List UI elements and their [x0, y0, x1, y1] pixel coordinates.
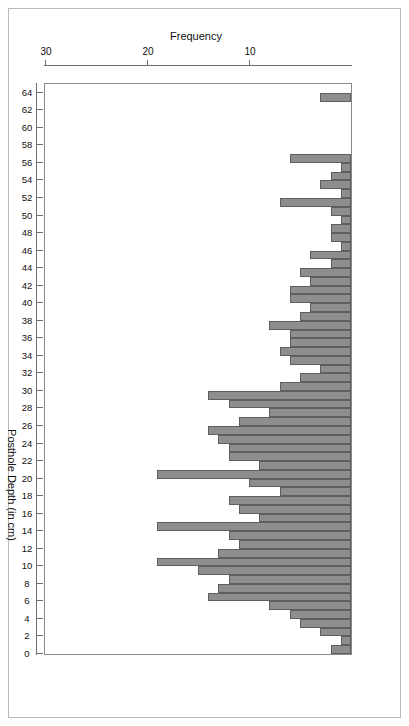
- depth-tick: [37, 215, 43, 216]
- frequency-tick-label: 20: [133, 46, 163, 58]
- depth-tick: [37, 109, 43, 110]
- depth-tick-label: 0: [19, 649, 35, 659]
- depth-tick: [37, 355, 43, 356]
- depth-tick-label: 10: [19, 561, 35, 571]
- histogram-bar: [300, 373, 351, 382]
- depth-tick-label: 30: [19, 386, 35, 396]
- frequency-axis-title: Frequency: [131, 30, 261, 42]
- frequency-tick: [147, 60, 148, 66]
- histogram-bar: [229, 444, 351, 453]
- histogram-bar: [341, 189, 351, 198]
- depth-tick: [37, 390, 43, 391]
- histogram-bar: [310, 277, 351, 286]
- histogram-bar: [269, 321, 351, 330]
- histogram-bar: [300, 312, 351, 321]
- depth-tick: [37, 285, 43, 286]
- histogram-bar: [229, 496, 351, 505]
- histogram-chart: 302010 Frequency 02468101214161820222426…: [8, 8, 401, 718]
- histogram-bar: [269, 601, 351, 610]
- histogram-bar: [331, 233, 351, 242]
- depth-tick-label: 48: [19, 228, 35, 238]
- histogram-bar: [157, 558, 351, 567]
- depth-tick-label: 62: [19, 105, 35, 115]
- depth-tick-label: 46: [19, 246, 35, 256]
- histogram-bar: [310, 251, 351, 260]
- depth-axis-title-wrapper: Posthole Depth (in cm): [6, 420, 22, 550]
- histogram-bar: [269, 408, 351, 417]
- histogram-bar: [239, 417, 351, 426]
- depth-axis-line: [36, 83, 37, 655]
- histogram-bar: [229, 452, 351, 461]
- histogram-bar: [208, 391, 351, 400]
- depth-tick: [37, 127, 43, 128]
- histogram-bar: [290, 330, 351, 339]
- depth-tick: [37, 232, 43, 233]
- depth-tick-label: 40: [19, 298, 35, 308]
- histogram-bar: [290, 154, 351, 163]
- histogram-bar: [229, 575, 351, 584]
- histogram-bar: [300, 619, 351, 628]
- depth-tick: [37, 92, 43, 93]
- histogram-bar: [218, 549, 351, 558]
- depth-tick: [37, 478, 43, 479]
- depth-tick: [37, 372, 43, 373]
- histogram-bar: [259, 461, 351, 470]
- histogram-bar: [310, 303, 351, 312]
- depth-tick: [37, 337, 43, 338]
- histogram-bar: [208, 426, 351, 435]
- depth-tick: [37, 162, 43, 163]
- histogram-bar: [320, 180, 351, 189]
- depth-tick-label: 50: [19, 211, 35, 221]
- depth-tick: [37, 565, 43, 566]
- bars-group: [45, 84, 351, 654]
- depth-tick-label: 6: [19, 596, 35, 606]
- histogram-bar: [331, 224, 351, 233]
- histogram-bar: [280, 487, 351, 496]
- depth-tick-label: 54: [19, 175, 35, 185]
- depth-tick: [37, 250, 43, 251]
- depth-tick-label: 36: [19, 333, 35, 343]
- depth-tick-label: 34: [19, 351, 35, 361]
- histogram-bar: [218, 584, 351, 593]
- histogram-bar: [290, 610, 351, 619]
- histogram-bar: [157, 522, 351, 531]
- histogram-bar: [320, 628, 351, 637]
- depth-tick-label: 28: [19, 403, 35, 413]
- depth-tick-label: 52: [19, 193, 35, 203]
- depth-tick: [37, 583, 43, 584]
- depth-tick: [37, 635, 43, 636]
- depth-tick-label: 8: [19, 579, 35, 589]
- histogram-bar: [198, 566, 351, 575]
- depth-tick-label: 2: [19, 631, 35, 641]
- histogram-bar: [290, 338, 351, 347]
- histogram-bar: [239, 540, 351, 549]
- rotated-chart-container: 302010 Frequency 02468101214161820222426…: [8, 8, 401, 718]
- depth-tick-label: 4: [19, 614, 35, 624]
- depth-tick-label: 60: [19, 123, 35, 133]
- histogram-bar: [259, 514, 351, 523]
- depth-tick-label: 44: [19, 263, 35, 273]
- histogram-bar: [341, 242, 351, 251]
- histogram-bar: [249, 479, 351, 488]
- histogram-bar: [320, 93, 351, 102]
- histogram-bar: [341, 216, 351, 225]
- depth-tick: [37, 320, 43, 321]
- depth-tick: [37, 513, 43, 514]
- histogram-bar: [229, 531, 351, 540]
- depth-tick-label: 64: [19, 88, 35, 98]
- frequency-axis-line: [44, 65, 352, 66]
- histogram-bar: [229, 400, 351, 409]
- histogram-bar: [290, 286, 351, 295]
- frequency-tick: [249, 60, 250, 66]
- depth-tick: [37, 495, 43, 496]
- depth-tick: [37, 179, 43, 180]
- histogram-bar: [290, 356, 351, 365]
- frequency-tick-label: 10: [235, 46, 265, 58]
- histogram-bar: [331, 207, 351, 216]
- histogram-bar: [280, 347, 351, 356]
- depth-tick: [37, 600, 43, 601]
- depth-tick: [37, 425, 43, 426]
- frequency-tick: [45, 60, 46, 66]
- depth-tick-label: 38: [19, 316, 35, 326]
- histogram-bar: [157, 470, 351, 479]
